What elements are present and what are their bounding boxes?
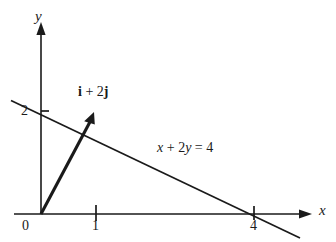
line-equation-annotation-label: x + 2y = 4 [157, 141, 213, 155]
vector-shaft [41, 119, 92, 214]
x-axis-tick-label-0: 0 [22, 219, 29, 233]
x-axis-label: x [319, 203, 326, 218]
y-axis-tick-label-2: 2 [21, 104, 28, 118]
math-figure: y 2 0 1 4 x i + 2j x + 2y = 4 [0, 0, 336, 242]
x-axis-tick-label-4: 4 [250, 219, 257, 233]
vector-arrowhead-icon [84, 112, 95, 125]
x-axis-tick-label-1: 1 [92, 219, 99, 233]
vector-annotation-label: i + 2j [78, 85, 108, 99]
x-axis-arrowhead-icon [299, 209, 312, 218]
y-axis-label: y [35, 9, 42, 24]
diagram-canvas [0, 0, 336, 242]
x-axis [14, 205, 312, 221]
